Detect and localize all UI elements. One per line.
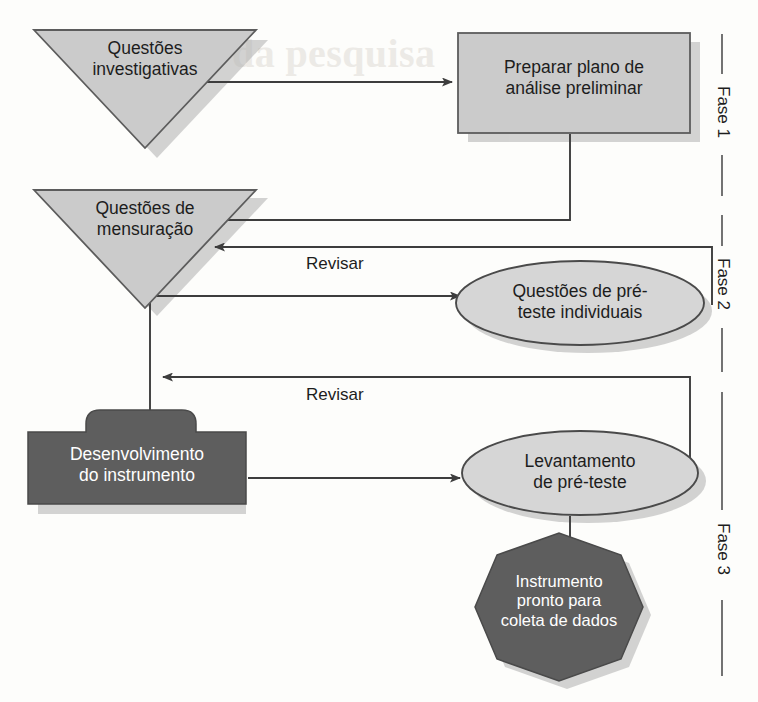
- node-questoes-pre-teste[interactable]: [456, 261, 704, 345]
- node-levantamento-pre-teste[interactable]: [462, 431, 698, 515]
- edge-plano-to-mensuracao: [215, 134, 570, 220]
- flowchart-canvas: [0, 0, 758, 702]
- node-instrumento-pronto[interactable]: [475, 533, 643, 681]
- node-questoes-investigativas[interactable]: [34, 30, 256, 148]
- node-desenvolvimento-instrumento[interactable]: [28, 410, 246, 504]
- node-questoes-mensuracao[interactable]: [34, 190, 256, 308]
- flowchart-page: da pesquisa: [0, 0, 758, 702]
- node-preparar-plano[interactable]: [458, 33, 690, 133]
